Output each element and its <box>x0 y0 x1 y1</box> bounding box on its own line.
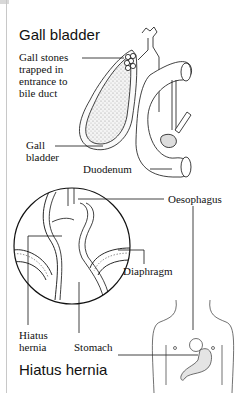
panel-title-hiatus-hernia: Hiatus hernia <box>19 361 108 378</box>
svg-text:Diaphragm: Diaphragm <box>123 265 173 277</box>
svg-text:trapped in: trapped in <box>19 63 64 75</box>
svg-text:Hiatus: Hiatus <box>19 329 48 341</box>
gall-bladder-illustration <box>79 27 191 177</box>
panel-title-gall-bladder: Gall bladder <box>19 26 100 43</box>
svg-text:Duodenum: Duodenum <box>83 163 132 175</box>
svg-text:Stomach: Stomach <box>74 341 113 353</box>
svg-text:Gall: Gall <box>26 139 45 151</box>
svg-text:bladder: bladder <box>26 151 59 163</box>
svg-text:hernia: hernia <box>19 341 47 353</box>
medical-diagram: Gall bladder Gall stones trapped in entr… <box>0 0 249 393</box>
svg-text:bile duct: bile duct <box>19 87 57 99</box>
hernia-magnified-illustration <box>14 186 130 304</box>
svg-text:Gall stones: Gall stones <box>19 51 68 63</box>
svg-text:entrance to: entrance to <box>19 75 68 87</box>
svg-text:Oesophagus: Oesophagus <box>168 193 222 205</box>
